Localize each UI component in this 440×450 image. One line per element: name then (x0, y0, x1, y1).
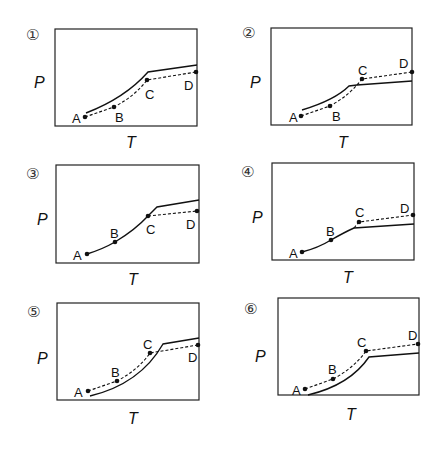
panel-4: ④ A B C D P T (241, 163, 415, 286)
panel-number: ④ (241, 163, 254, 181)
point-d (196, 343, 201, 348)
label-b: B (115, 110, 124, 125)
solid-curve (86, 65, 197, 113)
panel-1: ① A B C D P T (26, 26, 198, 151)
y-axis-label: P (37, 211, 48, 228)
point-c (357, 220, 362, 225)
figure-canvas: ① A B C D P T ② A B C D P T ③ (0, 0, 440, 450)
label-c: C (146, 222, 155, 237)
solid-curve (302, 81, 412, 110)
x-axis-label: T (128, 271, 139, 288)
point-d (195, 209, 200, 214)
panel-number: ③ (26, 165, 39, 183)
label-d: D (400, 201, 409, 216)
label-b: B (328, 362, 337, 377)
point-d (411, 213, 416, 218)
label-a: A (72, 111, 81, 126)
y-axis-label: P (37, 350, 48, 367)
panel-number: ② (242, 24, 255, 42)
dashed-path (148, 211, 197, 216)
y-axis-label: P (34, 74, 45, 91)
point-a (300, 250, 305, 255)
point-a (86, 389, 91, 394)
x-axis-label: T (338, 134, 349, 151)
point-a (299, 114, 304, 119)
x-axis-label: T (128, 410, 139, 427)
x-axis-label: T (126, 134, 137, 151)
point-d (410, 70, 415, 75)
point-a (85, 252, 90, 257)
label-a: A (292, 383, 301, 398)
label-c: C (355, 205, 364, 220)
panel-5: ⑤ A B C D P T (27, 303, 200, 427)
label-c: C (358, 63, 367, 78)
y-axis-label: P (250, 74, 261, 91)
point-c (146, 214, 151, 219)
panel-3: ③ A B C D P T (26, 165, 199, 288)
point-c (145, 78, 150, 83)
label-d: D (184, 78, 193, 93)
label-c: C (143, 337, 152, 352)
solid-curve (302, 224, 414, 252)
solid-curve (87, 200, 199, 254)
label-a: A (73, 248, 82, 263)
point-b (328, 104, 333, 109)
label-d: D (186, 217, 195, 232)
label-a: A (289, 246, 298, 261)
label-d: D (188, 350, 197, 365)
panel-number: ① (26, 26, 39, 44)
label-b: B (332, 109, 341, 124)
panel-6: ⑥ A B C D P T (244, 298, 420, 423)
y-axis-label: P (252, 209, 263, 226)
y-axis-label: P (255, 348, 266, 365)
point-a (303, 387, 308, 392)
label-c: C (145, 87, 154, 102)
solid-curve (308, 353, 419, 395)
panel-2: ② A B C D P T (242, 24, 414, 151)
label-b: B (326, 224, 335, 239)
dashed-path (85, 72, 196, 117)
point-b (331, 377, 336, 382)
x-axis-label: T (343, 269, 354, 286)
label-a: A (289, 110, 298, 125)
label-c: C (357, 335, 366, 350)
x-axis-label: T (346, 406, 357, 423)
label-b: B (111, 365, 120, 380)
panel-number: ⑤ (27, 303, 40, 321)
label-a: A (74, 385, 83, 400)
point-b (112, 105, 117, 110)
dashed-path (301, 72, 412, 116)
label-b: B (110, 226, 119, 241)
point-d (194, 70, 199, 75)
point-a (83, 115, 88, 120)
label-d: D (408, 328, 417, 343)
panel-number: ⑥ (244, 300, 257, 318)
label-d: D (399, 56, 408, 71)
